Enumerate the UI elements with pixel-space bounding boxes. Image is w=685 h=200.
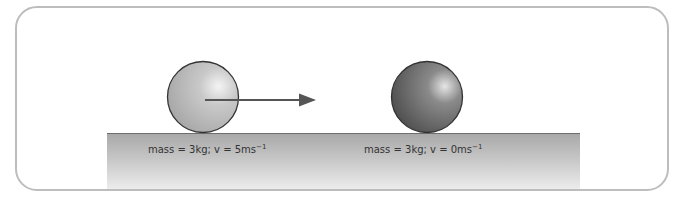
ball-1-label: mass = 3kg; v = 5ms−1 xyxy=(148,143,266,155)
ball-1 xyxy=(168,62,239,133)
ball-2-label: mass = 3kg; v = 0ms−1 xyxy=(364,143,482,155)
ball-2 xyxy=(392,62,463,133)
collision-scene xyxy=(0,0,685,200)
